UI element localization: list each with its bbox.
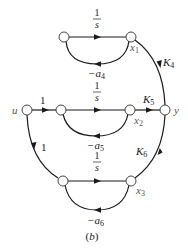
node-label-u: u [12,104,18,116]
node-x3 [126,176,136,186]
edge-x1-n1-feedback [66,41,129,64]
gain-1s-mid-den: s [95,92,99,103]
gain-1s-mid-num: 1 [95,80,100,91]
arrow-icon [146,107,153,113]
gain-1-u-n3: 1 [41,141,47,153]
gain-K5: K5 [142,93,154,107]
node-x2 [125,105,135,115]
node-y [160,105,170,115]
gain-K6: K6 [135,145,147,159]
arrow-icon [42,107,49,113]
node-n3 [58,176,68,186]
node-label-x2: x2 [133,114,143,128]
node-n1 [59,32,69,42]
figure-caption: (b) [86,230,99,243]
signal-flow-graph: 1 s −a4 x1 K4 1 1 s −a5 x2 K5 1 1 s −a6 … [0,0,188,252]
node-label-y: y [173,104,179,116]
arrow-icon [94,207,101,213]
gain-minus-a6: −a6 [87,214,104,228]
arrow-icon [94,61,101,67]
gain-1s-bot-den: s [95,162,99,173]
node-label-x1: x1 [129,41,139,55]
node-label-x3: x3 [135,184,145,198]
node-u [22,105,32,115]
arrow-icon [93,133,100,139]
gain-1s-bot-num: 1 [95,150,100,161]
node-x1 [126,32,136,42]
gain-K4: K4 [162,56,174,70]
gain-1-u-n2: 1 [40,94,46,106]
arrow-icon [94,107,101,113]
gain-1s-top-num: 1 [95,7,100,18]
edge-x3-n3-feedback [65,185,129,210]
node-n2 [56,105,66,115]
gain-minus-a4: −a4 [88,67,105,81]
arrow-icon [94,178,101,184]
edge-x2-n2-feedback [63,114,128,136]
arrow-icon [31,142,36,150]
arrow-icon [94,34,101,40]
gain-1s-top-den: s [95,19,99,30]
